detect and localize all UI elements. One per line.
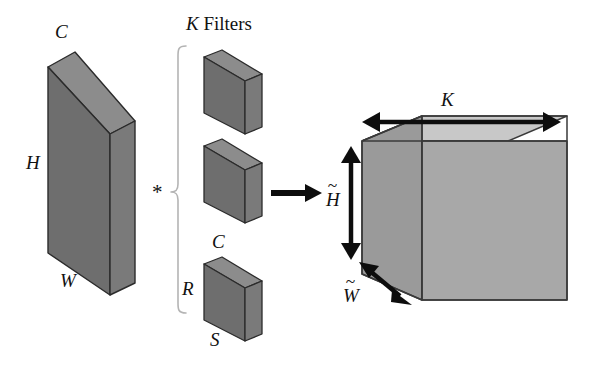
convolution-operator: * (152, 182, 163, 203)
output-depth-k-label: K (441, 90, 454, 109)
h-tilde-dimension-arrow (341, 146, 361, 260)
output-front-face (422, 141, 567, 300)
input-height-label: H (26, 153, 40, 172)
filter-columns-label: S (210, 330, 220, 349)
convolution-diagram: C H W * K Filters C R S K ~ H ~ W (0, 0, 599, 367)
input-side-face (110, 121, 135, 295)
filters-count-symbol: K (186, 13, 199, 34)
input-feature-map-shape (48, 52, 135, 295)
filter-2-side-face (245, 163, 262, 223)
result-arrow (271, 184, 322, 202)
w-tilde-accent: ~ (346, 273, 355, 290)
diagram-canvas (0, 0, 599, 367)
output-width-label: ~ W (343, 286, 359, 305)
filters-group-label: K Filters (186, 14, 252, 33)
input-channels-label: C (55, 22, 68, 41)
filter-3-side-face (245, 281, 262, 341)
filter-box-2 (204, 139, 262, 223)
filter-1-side-face (245, 74, 262, 134)
filter-channels-label: C (212, 232, 225, 251)
filters-group-text: Filters (203, 13, 252, 34)
filter-rows-label: R (182, 279, 194, 298)
output-height-label: ~ H (326, 190, 340, 209)
input-width-label: W (60, 271, 76, 290)
filters-brace (171, 46, 186, 313)
output-feature-map-shape (362, 116, 567, 300)
h-tilde-accent: ~ (328, 177, 337, 194)
filter-box-1 (204, 50, 262, 134)
